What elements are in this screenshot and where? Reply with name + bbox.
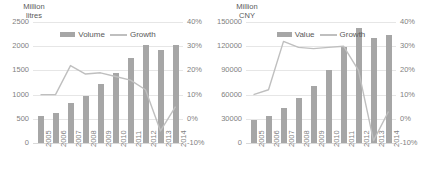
x-axis-tick-label: 2006: [273, 130, 281, 147]
chart-legend: VolumeGrowth: [38, 30, 178, 39]
legend-label: Growth: [340, 30, 366, 39]
charts-sheet: Million litres2500200015001000500040%30%…: [0, 0, 426, 184]
x-axis-tick-label: 2009: [318, 130, 326, 147]
legend-item[interactable]: Value: [277, 30, 315, 39]
x-axis-tick-label: 2011: [348, 131, 356, 147]
bar: [68, 103, 74, 143]
y-axis-tick-label: 120000: [213, 42, 242, 50]
bar: [173, 45, 179, 143]
plot-area: [33, 22, 183, 143]
bar: [281, 108, 287, 143]
y-axis-tick-label: 0: [0, 139, 29, 147]
y-axis-tick-label: 1000: [0, 91, 29, 99]
x-axis-tick-label: 2007: [75, 130, 83, 147]
y-axis-tick-label: 2000: [0, 42, 29, 50]
bar: [266, 116, 272, 143]
y-axis-tick-label: 0: [213, 139, 242, 147]
x-axis-tick-label: 2010: [120, 130, 128, 147]
x-axis-tick-label: 2013: [378, 130, 386, 147]
legend-bar-swatch-icon: [60, 32, 75, 37]
secondary-y-axis-tick-label: 0%: [187, 115, 198, 123]
secondary-y-axis-tick-label: 10%: [400, 91, 415, 99]
secondary-y-axis-tick-label: 40%: [400, 18, 415, 26]
y-axis-tick-label: 500: [0, 115, 29, 123]
bar: [386, 35, 392, 143]
x-axis-tick-label: 2008: [303, 130, 311, 147]
chart-volume-million-litres: Million litres2500200015001000500040%30%…: [0, 0, 213, 184]
bar: [251, 120, 257, 143]
gridline: [33, 46, 183, 47]
bar: [83, 96, 89, 143]
secondary-y-axis-tick-label: -10%: [400, 139, 418, 147]
bar: [356, 28, 362, 143]
secondary-y-axis-tick-label: 20%: [187, 66, 202, 74]
legend-item[interactable]: Growth: [320, 30, 366, 39]
bar: [296, 98, 302, 143]
y-axis-tick-label: 1500: [0, 66, 29, 74]
legend-bar-swatch-icon: [277, 32, 292, 37]
bar: [341, 47, 347, 143]
legend-item[interactable]: Volume: [60, 30, 105, 39]
secondary-y-axis-tick-label: 0%: [400, 115, 411, 123]
legend-label: Growth: [130, 30, 156, 39]
x-axis-tick-label: 2006: [60, 130, 68, 147]
x-axis-tick-label: 2005: [45, 130, 53, 147]
legend-line-swatch-icon: [320, 34, 337, 36]
secondary-y-axis-tick-label: 20%: [400, 66, 415, 74]
bar: [128, 58, 134, 143]
x-axis-tick-label: 2009: [105, 130, 113, 147]
x-axis-tick-label: 2010: [333, 130, 341, 147]
secondary-y-axis-tick-label: 40%: [187, 18, 202, 26]
y-axis-tick-label: 2500: [0, 18, 29, 26]
bar: [113, 73, 119, 143]
legend-label: Value: [295, 30, 315, 39]
y-axis-tick-label: 30000: [213, 115, 242, 123]
legend-label: Volume: [78, 30, 105, 39]
x-axis-tick-label: 2007: [288, 130, 296, 147]
secondary-y-axis-tick-label: -10%: [187, 139, 205, 147]
bar: [98, 84, 104, 143]
x-axis-tick-label: 2014: [180, 130, 188, 147]
x-axis-tick-label: 2013: [165, 130, 173, 147]
bar: [53, 113, 59, 143]
bar: [38, 116, 44, 143]
secondary-y-axis-tick-label: 10%: [187, 91, 202, 99]
bar: [326, 70, 332, 143]
x-axis-tick-label: 2011: [135, 131, 143, 147]
x-axis-tick-label: 2012: [363, 130, 371, 147]
secondary-y-axis-tick-label: 30%: [400, 42, 415, 50]
y-axis-tick-label: 60000: [213, 91, 242, 99]
legend-line-swatch-icon: [110, 34, 127, 36]
y-axis-tick-label: 90000: [213, 66, 242, 74]
gridline: [33, 22, 183, 23]
secondary-y-axis-tick-label: 30%: [187, 42, 202, 50]
chart-value-million-cny: Million CNY15000012000090000600003000004…: [213, 0, 426, 184]
legend-item[interactable]: Growth: [110, 30, 156, 39]
gridline: [246, 22, 396, 23]
x-axis-tick-label: 2014: [393, 130, 401, 147]
bar: [371, 38, 377, 143]
bar: [143, 45, 149, 143]
chart-legend: ValueGrowth: [251, 30, 391, 39]
bar: [311, 86, 317, 143]
y-axis-tick-label: 150000: [213, 18, 242, 26]
x-axis-tick-label: 2005: [258, 130, 266, 147]
plot-area: [246, 22, 396, 143]
x-axis-tick-label: 2008: [90, 130, 98, 147]
x-axis-tick-label: 2012: [150, 130, 158, 147]
bar: [158, 50, 164, 143]
